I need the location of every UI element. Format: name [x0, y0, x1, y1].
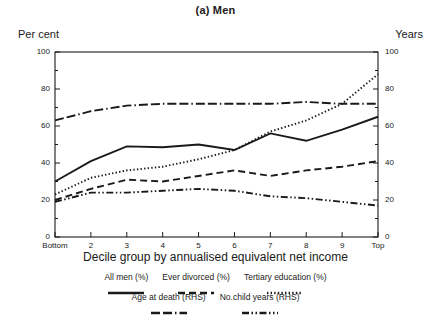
series-line-1 — [55, 161, 378, 200]
data-series-layer — [55, 74, 378, 205]
legend-label: Tertiary education (%) — [244, 272, 327, 282]
left-tick-label: 0 — [0, 232, 50, 241]
figure-men-deciles: (a) Men Per cent Years 020406080100 0204… — [0, 0, 431, 321]
legend-label: Ever divorced (%) — [162, 272, 230, 282]
legend-item[interactable]: Ever divorced (%) — [162, 272, 230, 288]
series-line-3 — [55, 102, 378, 121]
right-tick-label: 100 — [385, 47, 398, 56]
legend-item[interactable]: No.child years (RHS) — [220, 292, 300, 308]
x-axis-title: Decile group by annualised equivalent ne… — [0, 250, 431, 264]
right-tick-label: 60 — [385, 121, 394, 130]
right-tick-label: 20 — [385, 195, 394, 204]
legend-label: All men (%) — [104, 272, 148, 282]
left-tick-label: 80 — [0, 84, 50, 93]
legend-item[interactable]: Age at death (RHS) — [131, 292, 205, 308]
left-tick-label: 40 — [0, 158, 50, 167]
legend-row-1: All men (%)Ever divorced (%)Tertiary edu… — [0, 272, 431, 288]
series-line-4 — [55, 189, 378, 206]
left-tick-label: 20 — [0, 195, 50, 204]
legend-item[interactable]: Tertiary education (%) — [244, 272, 327, 288]
legend-label: No.child years (RHS) — [220, 292, 300, 302]
x-axis-ticks — [55, 232, 378, 237]
right-tick-label: 80 — [385, 84, 394, 93]
right-tick-label: 40 — [385, 158, 394, 167]
left-axis-ticks — [55, 52, 60, 237]
left-tick-label: 100 — [0, 47, 50, 56]
legend-item[interactable]: All men (%) — [104, 272, 148, 288]
chart-legend: All men (%)Ever divorced (%)Tertiary edu… — [0, 272, 431, 308]
series-line-0 — [55, 117, 378, 182]
axes-frame — [55, 52, 378, 237]
legend-swatch-dash-dot-dot — [240, 302, 280, 308]
legend-swatch-dotted — [265, 282, 305, 288]
legend-swatch-dash-dash-dot — [149, 302, 189, 308]
right-axis-ticks — [373, 52, 378, 237]
legend-swatch-dashed — [176, 282, 216, 288]
legend-label: Age at death (RHS) — [131, 292, 205, 302]
right-tick-label: 0 — [385, 232, 389, 241]
x-tick-label: Top — [353, 241, 403, 250]
left-tick-label: 60 — [0, 121, 50, 130]
legend-swatch-solid — [106, 282, 146, 288]
